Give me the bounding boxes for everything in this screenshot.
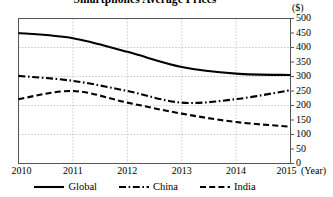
y-axis-tick-label: 350 (296, 57, 311, 67)
series-line-global (19, 33, 291, 75)
y-axis-tick-label: 150 (296, 115, 311, 125)
x-axis-unit-label: (Year) (301, 165, 326, 176)
y-axis-tick-label: 50 (296, 144, 306, 154)
x-axis-tick-label: 2011 (63, 165, 83, 176)
legend-label: China (153, 181, 178, 192)
x-axis-tick-label: 2015 (277, 165, 297, 176)
chart-container: Smartphones Average Prices ($) 050100150… (0, 0, 333, 197)
y-axis-tick-label: 250 (296, 86, 311, 96)
y-axis-tick-label: 500 (296, 13, 311, 23)
chart-legend: GlobalChinaIndia (0, 181, 290, 192)
y-axis-tick-label: 450 (296, 28, 311, 38)
legend-item-global[interactable]: Global (34, 181, 97, 192)
x-axis-tick-label: 2014 (226, 165, 246, 176)
x-axis-tick-label: 2012 (117, 165, 137, 176)
legend-item-china[interactable]: China (119, 181, 178, 192)
axis-ticks (291, 19, 295, 164)
legend-label: Global (68, 181, 97, 192)
y-axis-tick-label: 400 (296, 42, 311, 52)
legend-item-india[interactable]: India (200, 181, 256, 192)
series-line-india (19, 91, 291, 127)
data-series (19, 33, 291, 127)
y-axis-tick-label: 100 (296, 129, 311, 139)
y-axis-tick-label: 300 (296, 71, 311, 81)
series-line-china (19, 76, 291, 103)
x-axis-tick-label: 2010 (12, 165, 32, 176)
y-axis-tick-label: 200 (296, 100, 311, 110)
legend-swatch-solid-icon (34, 183, 64, 191)
legend-swatch-dash-dot-icon (119, 183, 149, 191)
legend-label: India (234, 181, 256, 192)
x-axis-tick-label: 2013 (172, 165, 192, 176)
legend-swatch-dashed-icon (200, 183, 230, 191)
